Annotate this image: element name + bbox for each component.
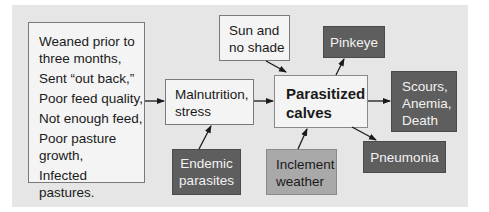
inclement-line-2: weather: [276, 173, 336, 190]
pneumonia-box: Pneumonia: [363, 141, 446, 173]
causes-line-3: Sent “out back,”: [39, 70, 144, 87]
causes-line-1: Weaned prior to: [39, 33, 144, 50]
malnutrition-line-2: stress: [175, 103, 253, 120]
sun-line-1: Sun and: [229, 22, 289, 39]
inclement-line-1: Inclement: [276, 156, 336, 173]
causes-box: Weaned prior to three months, Sent “out …: [28, 22, 145, 183]
causes-line-8: Infected pastures.: [39, 167, 144, 201]
scours-line-1: Scours,: [402, 78, 456, 95]
parasitized-line-1: Parasitized: [286, 84, 367, 103]
sun-box: Sun and no shade: [219, 15, 290, 61]
inclement-weather-box: Inclement weather: [266, 149, 337, 195]
malnutrition-line-1: Malnutrition,: [175, 86, 253, 103]
malnutrition-box: Malnutrition, stress: [165, 79, 254, 125]
scours-anemia-death-box: Scours, Anemia, Death: [391, 71, 457, 132]
sun-line-2: no shade: [229, 39, 289, 56]
parasitized-calves-box: Parasitized calves: [274, 75, 368, 128]
scours-line-2: Anemia,: [402, 95, 456, 112]
pinkeye-label: Pinkeye: [330, 34, 378, 51]
endemic-line-1: Endemic: [180, 155, 233, 172]
causes-line-2: three months,: [39, 50, 144, 67]
parasitized-line-2: calves: [286, 103, 367, 122]
pneumonia-label: Pneumonia: [370, 149, 438, 166]
causes-line-6: Poor pasture: [39, 130, 144, 147]
causes-line-4: Poor feed quality,: [39, 90, 144, 107]
pinkeye-box: Pinkeye: [323, 26, 385, 58]
endemic-parasites-box: Endemic parasites: [172, 149, 241, 195]
causes-line-5: Not enough feed,: [39, 110, 144, 127]
endemic-line-2: parasites: [179, 172, 234, 189]
scours-line-3: Death: [402, 112, 456, 129]
causes-line-7: growth,: [39, 147, 144, 164]
